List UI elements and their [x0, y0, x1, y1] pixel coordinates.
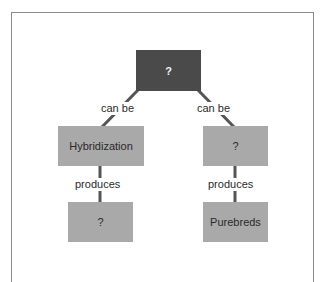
- edge-label-root-right: can be: [195, 102, 232, 115]
- edge-label-root-left: can be: [99, 102, 136, 115]
- hybridization-node-label: Hybridization: [69, 140, 133, 152]
- edge-label-right-produces: produces: [206, 178, 255, 191]
- purebreds-node: Purebreds: [203, 202, 268, 242]
- right-mid-node-label: ?: [232, 140, 238, 152]
- purebreds-node-label: Purebreds: [210, 216, 261, 228]
- root-node-label: ?: [165, 65, 172, 77]
- right-mid-node: ?: [203, 126, 268, 166]
- left-bottom-node-label: ?: [97, 216, 103, 228]
- root-node: ?: [136, 50, 201, 91]
- edge-label-left-produces: produces: [73, 178, 122, 191]
- hybridization-node: Hybridization: [58, 126, 144, 166]
- left-bottom-node: ?: [68, 202, 133, 242]
